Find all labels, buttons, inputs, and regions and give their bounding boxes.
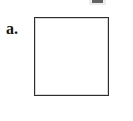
answer-square[interactable] — [34, 17, 109, 96]
scan-artifact-icon — [92, 0, 103, 3]
figure-page: a. — [0, 0, 133, 121]
figure-item-label: a. — [6, 20, 18, 37]
